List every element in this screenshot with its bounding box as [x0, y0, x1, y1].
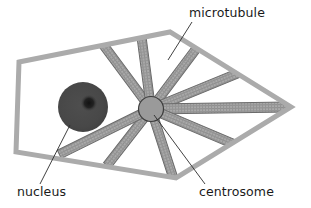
cell-diagram-canvas	[0, 0, 311, 208]
label-nucleus: nucleus	[17, 185, 66, 198]
microtubule-right	[151, 102, 288, 114]
label-centrosome: centrosome	[199, 185, 274, 198]
centrosome-body	[139, 97, 164, 122]
cell-diagram-figure: microtubule nucleus centrosome	[0, 0, 311, 208]
nucleus-shape	[58, 82, 108, 132]
nucleolus	[81, 95, 98, 112]
label-microtubule: microtubule	[189, 6, 265, 19]
microtubule-right-body	[151, 102, 288, 114]
